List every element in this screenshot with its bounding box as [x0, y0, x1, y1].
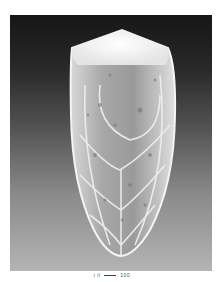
scale-bar	[104, 275, 116, 277]
caption-label: i il	[94, 272, 101, 278]
scale-value: 100	[120, 272, 130, 278]
scale-caption: i il 100	[0, 272, 224, 278]
specimen-illustration	[10, 15, 212, 271]
specimen-photo	[10, 15, 212, 271]
